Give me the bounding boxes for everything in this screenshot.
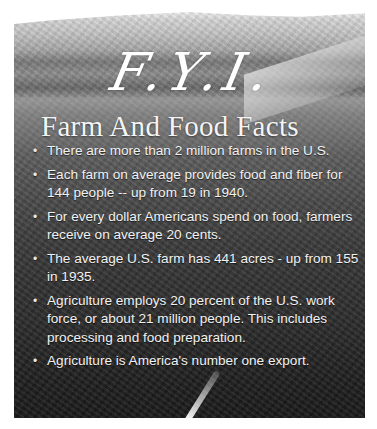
fact-item: • Agriculture employs 20 percent of the … (33, 292, 363, 348)
fact-item: • For every dollar Americans spend on fo… (33, 208, 363, 245)
fact-item: • There are more than 2 million farms in… (33, 142, 363, 161)
fact-text: Agriculture employs 20 percent of the U.… (47, 293, 335, 345)
poster-subtitle: Farm And Food Facts (41, 112, 341, 141)
fact-text: Each farm on average provides food and f… (47, 167, 342, 201)
fact-item: • Each farm on average provides food and… (33, 166, 363, 203)
fact-item: • The average U.S. farm has 441 acres - … (33, 250, 363, 287)
fact-text: There are more than 2 million farms in t… (47, 143, 330, 158)
fact-text: For every dollar Americans spend on food… (47, 209, 352, 243)
bullet-icon: • (33, 292, 37, 311)
bullet-icon: • (33, 208, 37, 227)
bullet-icon: • (33, 142, 37, 161)
bullet-icon: • (33, 250, 37, 269)
fact-text: Agriculture is America's number one expo… (47, 353, 310, 368)
farm-landscape-poster: F.Y.I. Farm And Food Facts • There are m… (14, 12, 365, 418)
poster-title: F.Y.I. (106, 46, 297, 98)
facts-list: • There are more than 2 million farms in… (33, 142, 363, 376)
bullet-icon: • (33, 166, 37, 185)
fact-item: • Agriculture is America's number one ex… (33, 352, 363, 371)
fact-text: The average U.S. farm has 441 acres - up… (47, 251, 358, 285)
bullet-icon: • (33, 352, 37, 371)
